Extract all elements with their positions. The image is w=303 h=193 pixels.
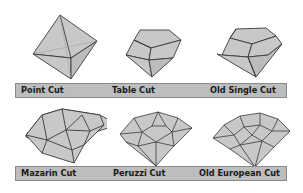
old-european-cut-diamond-icon	[210, 105, 295, 171]
cut-label-point: Point Cut	[21, 85, 64, 95]
table-cut-diamond-icon	[118, 18, 193, 80]
cut-label-table: Table Cut	[112, 85, 155, 95]
cut-label-old-single: Old Single Cut	[210, 85, 276, 95]
old-single-cut-diamond-icon	[214, 22, 294, 80]
mazarin-cut-diamond-icon	[22, 105, 107, 167]
point-cut-diamond-icon	[25, 8, 105, 83]
label-bar-row-1: Point Cut Table Cut Old Single Cut	[15, 83, 287, 98]
peruzzi-cut-diamond-icon	[116, 108, 196, 170]
label-bar-row-2: Mazarin Cut Peruzzi Cut Old European Cut	[15, 166, 287, 181]
cut-label-mazarin: Mazarin Cut	[21, 168, 76, 178]
cut-label-peruzzi: Peruzzi Cut	[113, 168, 165, 178]
cut-label-old-european: Old European Cut	[199, 168, 280, 178]
